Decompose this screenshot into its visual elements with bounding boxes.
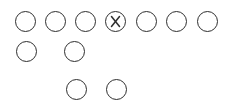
center-player-x-circle-icon <box>105 11 126 32</box>
player-circle-icon <box>66 79 87 100</box>
x-mark-icon <box>106 12 125 31</box>
player-circle-icon <box>64 41 85 62</box>
player-circle-icon <box>136 11 157 32</box>
formation-diagram <box>0 0 228 112</box>
player-circle-icon <box>16 41 37 62</box>
player-circle-icon <box>166 11 187 32</box>
player-circle-icon <box>75 11 96 32</box>
player-circle-icon <box>15 11 36 32</box>
player-circle-icon <box>106 79 127 100</box>
player-circle-icon <box>45 11 66 32</box>
player-circle-icon <box>197 11 218 32</box>
